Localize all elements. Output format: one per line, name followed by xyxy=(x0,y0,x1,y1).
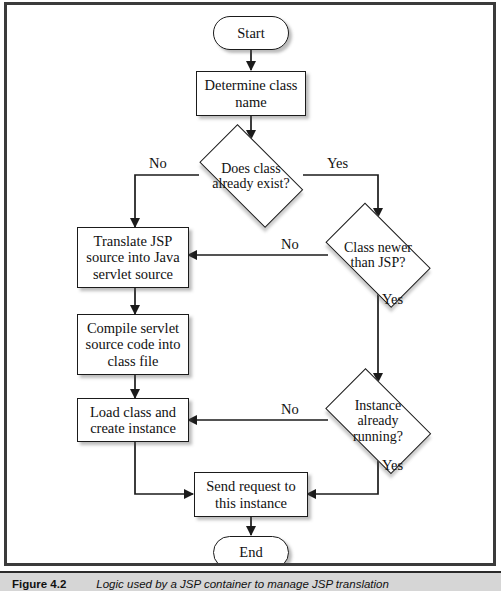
edge-label-newer-yes: Yes xyxy=(382,291,403,308)
node-does-class-exist-label: Does class already exist? xyxy=(209,161,292,192)
node-does-class-exist[interactable]: Does class already exist? xyxy=(187,139,315,213)
figure-caption-text: Logic used by a JSP container to manage … xyxy=(96,578,389,590)
edge-label-newer-no: No xyxy=(281,236,299,253)
node-compile-servlet-label: Compile servlet source code into class f… xyxy=(82,320,183,369)
flowchart-canvas: Start Determine class name Does class al… xyxy=(7,5,493,563)
figure-caption-number: Figure 4.2 xyxy=(12,578,66,590)
node-class-newer-than-jsp[interactable]: Class newer than JSP? xyxy=(314,217,442,293)
node-send-request[interactable]: Send request to this instance xyxy=(194,472,308,517)
node-instance-already-running-label: Instance already running? xyxy=(350,398,406,444)
node-compile-servlet[interactable]: Compile servlet source code into class f… xyxy=(77,314,189,375)
edge-label-running-no: No xyxy=(281,401,299,418)
edge-running-yes-to-send xyxy=(307,458,378,494)
node-translate-jsp-label: Translate JSP source into Java servlet s… xyxy=(83,233,182,282)
node-determine-class-name-label: Determine class name xyxy=(201,77,300,109)
node-class-newer-than-jsp-label: Class newer than JSP? xyxy=(341,240,415,271)
figure-caption-bar: Figure 4.2 Logic used by a JSP container… xyxy=(0,571,501,591)
node-end[interactable]: End xyxy=(213,536,289,566)
figure-caption: Figure 4.2 Logic used by a JSP container… xyxy=(12,574,389,591)
node-start-label: Start xyxy=(234,25,267,41)
edge-label-exists-yes: Yes xyxy=(327,155,348,172)
node-start[interactable]: Start xyxy=(213,16,289,50)
edge-label-running-yes: Yes xyxy=(382,457,403,474)
diagram-frame: Start Determine class name Does class al… xyxy=(4,2,496,566)
edge-load-to-send xyxy=(135,442,193,494)
node-load-class[interactable]: Load class and create instance xyxy=(77,398,189,442)
node-instance-already-running[interactable]: Instance already running? xyxy=(314,382,442,460)
node-send-request-label: Send request to this instance xyxy=(203,478,298,510)
node-end-label: End xyxy=(236,544,265,560)
node-load-class-label: Load class and create instance xyxy=(87,404,179,436)
node-translate-jsp[interactable]: Translate JSP source into Java servlet s… xyxy=(77,227,189,288)
edge-label-exists-no: No xyxy=(149,155,167,172)
node-determine-class-name[interactable]: Determine class name xyxy=(196,71,306,116)
